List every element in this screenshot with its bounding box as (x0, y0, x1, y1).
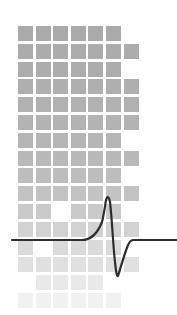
waveform-icon (0, 0, 177, 315)
waveform-line (12, 197, 177, 276)
